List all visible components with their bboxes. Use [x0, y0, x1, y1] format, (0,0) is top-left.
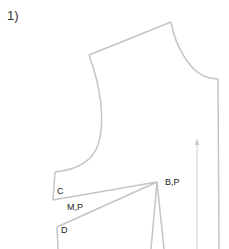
waist-dart-right-leg — [157, 182, 164, 249]
shoulder-line — [89, 22, 171, 55]
armhole-curve — [55, 55, 102, 172]
side-dart-upper-leg — [53, 182, 157, 200]
point-label-c: C — [57, 186, 64, 196]
point-label-bp: B,P — [165, 177, 180, 187]
center-front-line — [218, 79, 219, 249]
bodice-pattern-diagram — [0, 0, 229, 249]
point-label-mp: M,P — [67, 202, 83, 212]
point-label-d: D — [61, 225, 68, 235]
grain-arrow-icon — [195, 138, 200, 145]
waist-dart-left-leg — [151, 182, 157, 249]
side-seam-upper — [53, 172, 55, 200]
side-seam-lower — [57, 227, 58, 249]
neckline-curve — [171, 22, 218, 79]
